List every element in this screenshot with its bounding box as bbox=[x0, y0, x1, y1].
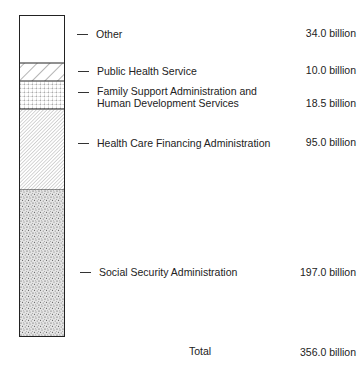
leader-line bbox=[78, 143, 89, 144]
value-other: 34.0 billion bbox=[306, 27, 356, 39]
bar-fill bbox=[20, 16, 64, 336]
total-label: Total bbox=[189, 345, 211, 357]
leader-line bbox=[80, 272, 91, 273]
label-family-support: Family Support Administration and Human … bbox=[97, 85, 257, 109]
total-value: 356.0 billion bbox=[300, 346, 356, 358]
segment-social-security bbox=[20, 190, 64, 336]
leader-line bbox=[78, 92, 89, 93]
leader-line bbox=[77, 34, 88, 35]
leader-line bbox=[78, 71, 89, 72]
value-health-care-financing: 95.0 billion bbox=[306, 136, 356, 148]
segment-health-care-financing bbox=[20, 109, 64, 190]
value-family-support: 18.5 billion bbox=[306, 97, 356, 109]
stacked-bar bbox=[19, 15, 65, 337]
segment-other bbox=[20, 16, 64, 63]
label-social-security: Social Security Administration bbox=[99, 266, 237, 278]
label-line: Family Support Administration and bbox=[97, 85, 257, 97]
label-public-health-service: Public Health Service bbox=[97, 65, 197, 77]
label-health-care-financing: Health Care Financing Administration bbox=[97, 137, 270, 149]
segment-family-support bbox=[20, 81, 64, 109]
label-other: Other bbox=[96, 28, 122, 40]
segment-public-health-service bbox=[20, 63, 64, 81]
value-public-health-service: 10.0 billion bbox=[306, 64, 356, 76]
label-line: Human Development Services bbox=[97, 97, 257, 109]
value-social-security: 197.0 billion bbox=[300, 266, 356, 278]
